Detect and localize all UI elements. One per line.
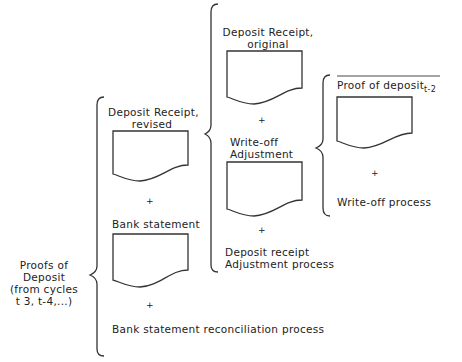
label-deposit-receipt-adjustment-process: Deposit receipt Adjustment process <box>225 246 334 270</box>
plus-operator: + <box>258 226 266 235</box>
plus-operator: + <box>258 116 266 125</box>
root-label-line: t 3, t-4,...) <box>2 295 86 307</box>
diagram-art <box>0 0 462 362</box>
label-line: Adjustment process <box>225 258 334 270</box>
label-subscript: t-2 <box>424 85 436 94</box>
label-line: Deposit Receipt, <box>222 26 314 38</box>
label-proof-of-deposit: Proof of depositt-2 <box>337 79 436 96</box>
document-icon-bank-statement <box>113 234 188 287</box>
label-line: Write-off <box>230 136 293 148</box>
plus-operator: + <box>371 169 379 178</box>
document-icon-proof-of-deposit <box>337 97 412 148</box>
plus-operator: + <box>146 301 154 310</box>
document-icon-deposit-receipt-original <box>227 51 302 104</box>
label-line: revised <box>108 118 196 130</box>
label-bank-statement: Bank statement <box>112 218 200 230</box>
root-label-line: Deposit <box>2 271 86 283</box>
document-icon-write-off-adjustment <box>227 162 302 216</box>
plus-operator: + <box>146 197 154 206</box>
label-deposit-receipt-original: Deposit Receipt, original <box>222 26 314 50</box>
root-label-line: (from cycles <box>2 283 86 295</box>
label-deposit-receipt-revised: Deposit Receipt, revised <box>108 106 196 130</box>
brace-level3 <box>316 75 330 216</box>
document-icon-deposit-receipt-revised <box>113 131 188 181</box>
label-write-off-process: Write-off process <box>337 196 431 208</box>
brace-level2 <box>205 4 218 272</box>
label-text: Proof of deposit <box>337 79 424 91</box>
label-line: original <box>222 38 314 50</box>
label-bank-statement-reconciliation-process: Bank statement reconciliation process <box>112 323 324 335</box>
label-line: Deposit Receipt, <box>108 106 196 118</box>
brace-level1 <box>90 97 104 356</box>
root-label-proofs-of-deposit: Proofs of Deposit (from cycles t 3, t-4,… <box>2 259 86 307</box>
label-write-off-adjustment: Write-off Adjustment <box>230 136 293 160</box>
label-line: Deposit receipt <box>225 246 334 258</box>
label-line: Adjustment <box>230 148 293 160</box>
root-label-line: Proofs of <box>2 259 86 271</box>
